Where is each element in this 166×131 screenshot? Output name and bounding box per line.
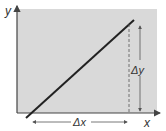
delta-y-label: Δy bbox=[130, 64, 145, 76]
x-axis-label: x bbox=[143, 116, 151, 130]
slope-diagram: y x Δx Δy bbox=[0, 0, 166, 131]
y-axis-label: y bbox=[4, 4, 12, 18]
delta-x-label: Δx bbox=[72, 116, 86, 128]
